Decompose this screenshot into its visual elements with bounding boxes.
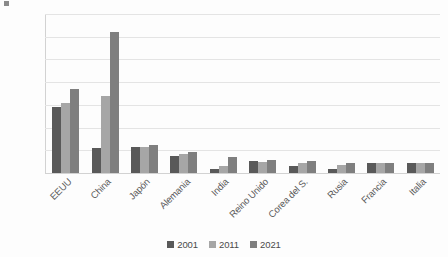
bar [92, 148, 101, 173]
bar [188, 152, 197, 173]
bar [367, 163, 376, 173]
bar [170, 156, 179, 173]
top-corner-mark [4, 1, 9, 6]
legend-item[interactable]: 2011 [209, 239, 239, 250]
bar [376, 163, 385, 173]
bar [210, 169, 219, 173]
bar-group [282, 14, 321, 173]
bar [337, 165, 346, 173]
bar [179, 154, 188, 173]
x-label-cell: Corea del S. [282, 174, 321, 222]
bar-group [322, 14, 361, 173]
bar [149, 145, 158, 173]
bar [346, 163, 355, 173]
bar [110, 32, 119, 173]
bar [425, 163, 434, 173]
bar [101, 96, 110, 173]
x-tick-label: India [209, 176, 231, 198]
bar-group [361, 14, 400, 173]
legend-item[interactable]: 2021 [250, 239, 281, 250]
legend-item[interactable]: 2001 [167, 239, 198, 250]
x-label-cell: Francia [361, 174, 400, 222]
x-tick-label: China [88, 176, 113, 201]
bar-group [125, 14, 164, 173]
x-axis-category-labels: EEUUChinaJapónAlemaniaIndiaReino UnidoCo… [46, 174, 440, 222]
bar [61, 103, 70, 173]
bar-group [164, 14, 203, 173]
x-label-cell: Italia [401, 174, 440, 222]
bar [289, 166, 298, 173]
x-tick-label: Francia [359, 176, 388, 205]
bar [307, 161, 316, 173]
bar [70, 89, 79, 173]
bar-group [85, 14, 124, 173]
bar-chart: 7.0006.0005.0004.0003.0002.0001.0000 EEU… [0, 0, 448, 257]
bar [219, 166, 228, 173]
bar [416, 163, 425, 173]
bar-group [243, 14, 282, 173]
x-tick-label: Italia [407, 176, 428, 197]
x-label-cell: Rusia [322, 174, 361, 222]
x-label-cell: China [85, 174, 124, 222]
legend-label: 2011 [219, 239, 239, 250]
bar [385, 163, 394, 173]
plot-area [45, 14, 440, 173]
x-label-cell: Japón [125, 174, 164, 222]
chart-legend: 200120112021 [0, 239, 448, 250]
bar [140, 147, 149, 173]
x-label-cell: EEUU [46, 174, 85, 222]
legend-label: 2021 [260, 239, 281, 250]
bar-group-container [46, 14, 440, 173]
x-tick-label: Japón [127, 176, 153, 202]
bar [298, 163, 307, 173]
bar [258, 162, 267, 173]
bar [267, 160, 276, 173]
bar [407, 163, 416, 173]
legend-label: 2001 [177, 239, 198, 250]
legend-swatch [250, 241, 257, 248]
x-label-cell: Alemania [164, 174, 203, 222]
x-tick-label: EEUU [47, 176, 73, 202]
legend-swatch [167, 241, 174, 248]
bar-group [204, 14, 243, 173]
bar [52, 107, 61, 173]
bar-group [46, 14, 85, 173]
bar [131, 147, 140, 173]
bar [249, 161, 258, 173]
bar [228, 157, 237, 173]
legend-swatch [209, 241, 216, 248]
bar-group [401, 14, 440, 173]
bar [328, 169, 337, 173]
x-tick-label: Rusia [325, 176, 349, 200]
